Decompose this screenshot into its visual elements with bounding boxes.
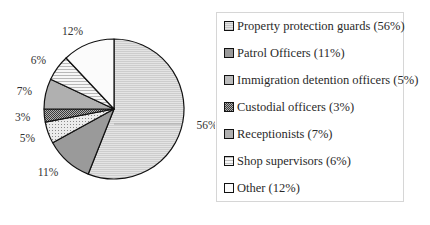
slice-data-label: 12% — [62, 25, 84, 37]
legend-label: Immigration detention officers (5%) — [237, 73, 418, 88]
legend-item-receptionists: Receptionists (7%) — [224, 127, 332, 141]
swatch-icon — [224, 156, 234, 166]
slice-data-label: 6% — [31, 54, 47, 66]
slice-data-label: 7% — [17, 85, 33, 97]
swatch-icon — [224, 102, 234, 112]
legend-item-custodial-officers: Custodial officers (3%) — [224, 100, 354, 114]
legend-item-immigration-detention-officers: Immigration detention officers (5%) — [224, 73, 418, 87]
swatch-icon — [224, 75, 234, 85]
swatch-icon — [224, 129, 234, 139]
swatch-icon — [224, 21, 234, 31]
pie-chart: 56%11%5%3%7%6%12% — [0, 0, 215, 225]
legend: Property protection guards (56%) Patrol … — [216, 12, 404, 202]
slice-data-label: 56% — [197, 119, 216, 131]
swatch-icon — [224, 183, 234, 193]
slice-data-label: 5% — [20, 132, 36, 144]
legend-label: Shop supervisors (6%) — [237, 154, 351, 169]
legend-item-shop-supervisors: Shop supervisors (6%) — [224, 154, 351, 168]
slice-data-label: 3% — [15, 111, 31, 123]
legend-label: Receptionists (7%) — [237, 127, 332, 142]
swatch-icon — [224, 48, 234, 58]
legend-label: Other (12%) — [237, 181, 300, 196]
legend-item-property-protection-guards: Property protection guards (56%) — [224, 19, 405, 33]
pie-slices — [44, 39, 184, 179]
legend-item-other: Other (12%) — [224, 181, 300, 195]
legend-label: Patrol Officers (11%) — [237, 46, 345, 61]
legend-label: Custodial officers (3%) — [237, 100, 354, 115]
legend-item-patrol-officers: Patrol Officers (11%) — [224, 46, 345, 60]
slice-data-label: 11% — [38, 166, 59, 178]
legend-label: Property protection guards (56%) — [237, 19, 405, 34]
